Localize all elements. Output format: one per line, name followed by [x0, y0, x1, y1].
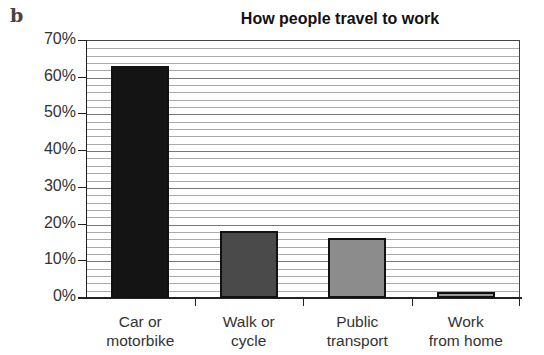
x-tick-label: Car ormotorbike	[85, 312, 195, 350]
y-tick-label: 30%	[20, 177, 76, 195]
bar-car-or-motorbike	[111, 66, 169, 298]
y-tick-label: 20%	[20, 214, 76, 232]
y-tick-label: 40%	[20, 140, 76, 158]
y-tick-label: 10%	[20, 250, 76, 268]
grid-line	[87, 48, 519, 49]
chart-title: How people travel to work	[180, 10, 500, 28]
bar-public-transport	[328, 238, 386, 298]
y-tick-label: 50%	[20, 103, 76, 121]
x-tick-label: Publictransport	[302, 312, 412, 350]
x-tick	[412, 297, 413, 306]
y-tick-label: 70%	[20, 30, 76, 48]
panel-label: b	[10, 4, 23, 26]
bar-walk-or-cycle	[220, 231, 278, 298]
x-tick	[519, 297, 520, 306]
grid-line	[87, 56, 519, 57]
x-tick-label: Workfrom home	[411, 312, 521, 350]
bar-work-from-home	[437, 292, 495, 298]
y-tick-label: 0%	[20, 287, 76, 305]
y-axis	[86, 40, 87, 298]
y-tick-label: 60%	[20, 67, 76, 85]
x-tick-label: Walk orcycle	[194, 312, 304, 350]
grid-line	[87, 63, 519, 64]
x-tick	[303, 297, 304, 306]
x-tick	[195, 297, 196, 306]
